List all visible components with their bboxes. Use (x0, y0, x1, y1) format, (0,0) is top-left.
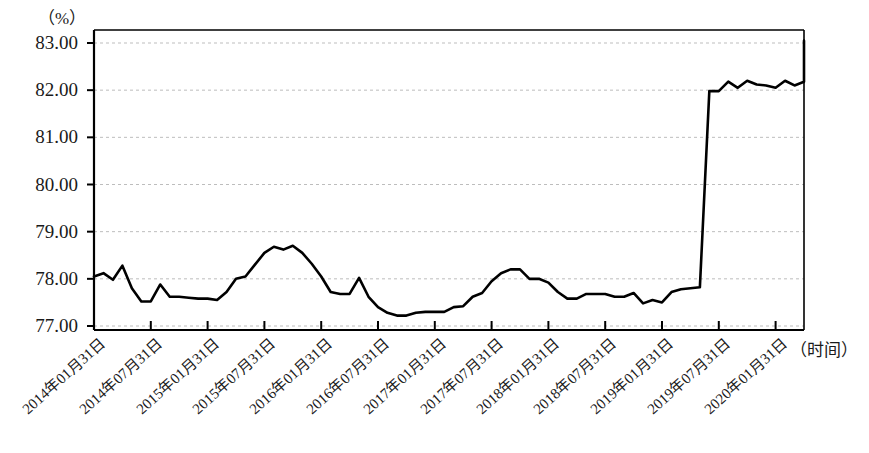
line-chart: （%） （时间） 83.0082.0081.0080.0079.0078.007… (0, 0, 869, 453)
axes (94, 30, 804, 330)
gridlines (94, 43, 804, 326)
data-series-line (94, 41, 804, 316)
plot-area (0, 0, 869, 453)
